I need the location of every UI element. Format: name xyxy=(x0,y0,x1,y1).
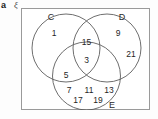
set-label-c: C xyxy=(48,12,55,22)
venn-diagram-figure: a ξ C D E 1 9 21 15 3 5 13 7 11 17 19 xyxy=(0,0,158,119)
set-label-e: E xyxy=(109,100,115,110)
region-value-c-and-d-and-e: 3 xyxy=(84,55,89,65)
region-value-c-and-d: 15 xyxy=(82,37,92,47)
set-label-d: D xyxy=(119,12,126,22)
region-value-d-only-upper: 9 xyxy=(116,28,121,38)
circle-d xyxy=(73,14,141,82)
venn-diagram-svg: C D E 1 9 21 15 3 5 13 7 11 17 19 xyxy=(21,8,150,110)
region-value-c-and-e: 5 xyxy=(64,70,69,80)
region-value-e-only-left: 7 xyxy=(67,85,72,95)
region-value-c-only: 1 xyxy=(52,28,57,38)
part-label-a: a xyxy=(1,1,6,10)
region-value-d-only-lower: 21 xyxy=(126,49,136,59)
region-value-e-only-lower-right: 19 xyxy=(93,95,103,105)
universal-set-symbol: ξ xyxy=(14,1,18,10)
region-value-d-and-e: 13 xyxy=(104,85,114,95)
region-value-e-only-mid: 11 xyxy=(85,85,94,95)
region-value-e-only-lower-left: 17 xyxy=(73,95,83,105)
